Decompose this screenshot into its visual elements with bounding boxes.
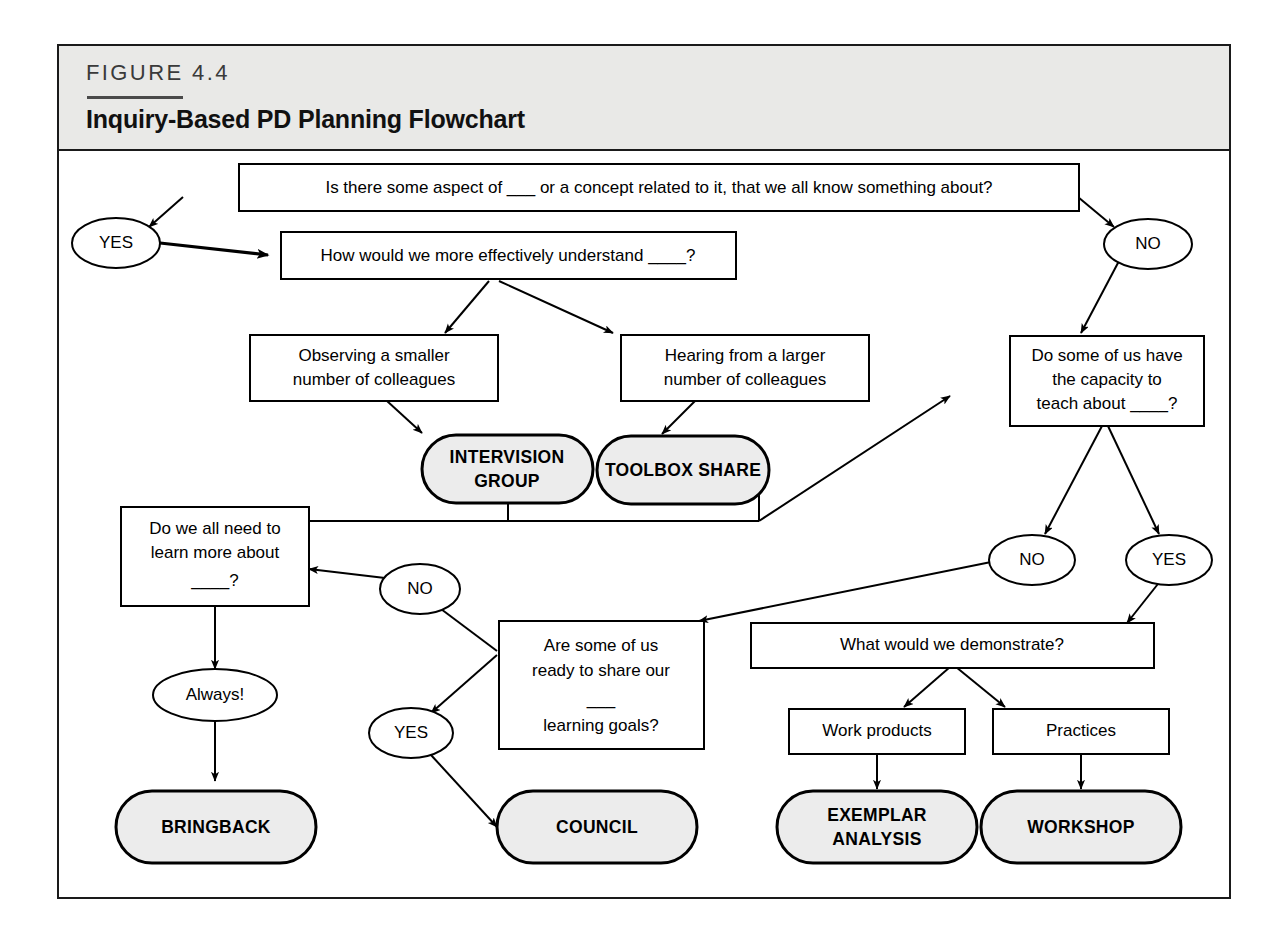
page-title: Inquiry-Based PD Planning Flowchart <box>86 105 525 134</box>
figure-number: FIGURE 4.4 <box>86 60 230 86</box>
node-work-products-label: Work products <box>822 721 931 740</box>
node-toolbox-share[interactable]: TOOLBOX SHARE <box>597 436 769 504</box>
edge-no3-learnmore <box>309 569 385 578</box>
node-intervision-group[interactable]: INTERVISION GROUP <box>422 435 593 503</box>
node-demonstrate-label: What would we demonstrate? <box>840 635 1064 654</box>
figure-page: FIGURE 4.4 Inquiry-Based PD Planning Flo… <box>0 0 1271 943</box>
node-practices[interactable]: Practices <box>993 709 1169 754</box>
node-bringback[interactable]: BRINGBACK <box>116 791 316 863</box>
node-yes-2[interactable]: YES <box>1126 535 1212 585</box>
edge-hearing-toolbox <box>662 401 695 434</box>
node-question-2-label: How would we more effectively understand… <box>321 246 696 265</box>
node-council-label: COUNCIL <box>556 817 638 837</box>
node-no-3-label: NO <box>407 579 433 598</box>
edge-q1-no <box>1078 197 1114 227</box>
node-workshop-label: WORKSHOP <box>1027 817 1134 837</box>
node-observing-label-1: Observing a smaller <box>298 346 450 365</box>
node-question-2[interactable]: How would we more effectively understand… <box>281 232 736 279</box>
node-ready-label-2: ready to share our <box>532 661 670 680</box>
flowchart-svg: Is there some aspect of ___ or a concept… <box>59 151 1228 896</box>
node-exemplar-label-2: ANALYSIS <box>832 829 921 849</box>
node-toolbox-share-label: TOOLBOX SHARE <box>605 460 761 480</box>
node-hearing-box[interactable] <box>621 335 869 401</box>
node-no-2[interactable]: NO <box>989 535 1075 585</box>
node-exemplar-analysis-shape[interactable] <box>777 791 977 863</box>
node-yes-3[interactable]: YES <box>369 708 453 758</box>
node-yes-1[interactable]: YES <box>72 218 160 268</box>
node-always-label: Always! <box>186 685 245 704</box>
node-bringback-label: BRINGBACK <box>161 817 271 837</box>
node-hearing-label-1: Hearing from a larger <box>665 346 826 365</box>
node-capacity[interactable]: Do some of us have the capacity to teach… <box>1010 336 1204 426</box>
node-yes-1-label: YES <box>99 233 133 252</box>
node-demonstrate[interactable]: What would we demonstrate? <box>751 623 1154 668</box>
node-exemplar-label-1: EXEMPLAR <box>827 805 927 825</box>
node-no-2-label: NO <box>1019 550 1045 569</box>
edge-ready-yes3 <box>431 655 497 713</box>
node-hearing[interactable]: Hearing from a larger number of colleagu… <box>621 335 869 401</box>
node-hearing-label-2: number of colleagues <box>664 370 827 389</box>
node-observing-box[interactable] <box>250 335 498 401</box>
node-yes-2-label: YES <box>1152 550 1186 569</box>
node-council[interactable]: COUNCIL <box>497 791 697 863</box>
node-ready-label-1: Are some of us <box>544 636 658 655</box>
node-capacity-label-2: the capacity to <box>1052 370 1162 389</box>
edge-observe-intervision <box>387 401 422 433</box>
node-learn-more-label-2: learn more about <box>151 543 280 562</box>
node-workshop[interactable]: WORKSHOP <box>981 791 1181 863</box>
edge-demo-workprod <box>904 667 950 707</box>
node-practices-label: Practices <box>1046 721 1116 740</box>
node-ready-to-share[interactable]: Are some of us ready to share our ___ le… <box>499 621 704 749</box>
node-intervision-group-shape[interactable] <box>422 435 593 503</box>
node-always[interactable]: Always! <box>153 669 277 721</box>
node-learn-more-label-3: ____? <box>190 571 238 590</box>
flowchart-canvas: Is there some aspect of ___ or a concept… <box>59 151 1229 897</box>
edge-q2-hearing <box>499 281 613 333</box>
node-yes-3-label: YES <box>394 723 428 742</box>
node-work-products[interactable]: Work products <box>789 709 965 754</box>
node-observing[interactable]: Observing a smaller number of colleagues <box>250 335 498 401</box>
edge-yes-q2 <box>160 243 268 255</box>
edge-capacity-yes2 <box>1108 426 1159 534</box>
node-learn-more[interactable]: Do we all need to learn more about ____? <box>121 507 309 606</box>
node-no-1-label: NO <box>1135 234 1161 253</box>
node-no-1[interactable]: NO <box>1104 219 1192 269</box>
node-no-3[interactable]: NO <box>380 564 460 614</box>
edge-q2-observe <box>445 281 489 333</box>
node-learn-more-label-1: Do we all need to <box>149 519 280 538</box>
edge-no-capacity <box>1081 261 1119 333</box>
header-rule <box>87 96 183 99</box>
node-ready-label-4: learning goals? <box>543 716 658 735</box>
edge-yes3-council <box>431 755 497 827</box>
node-exemplar-analysis[interactable]: EXEMPLAR ANALYSIS <box>777 791 977 863</box>
node-observing-label-2: number of colleagues <box>293 370 456 389</box>
edge-no2-ready <box>699 560 1001 621</box>
figure-frame: FIGURE 4.4 Inquiry-Based PD Planning Flo… <box>57 44 1231 899</box>
edge-capacity-no2 <box>1045 426 1102 534</box>
node-question-1[interactable]: Is there some aspect of ___ or a concept… <box>239 164 1079 211</box>
node-intervision-group-label-1: INTERVISION <box>450 447 565 467</box>
edge-demo-practices <box>956 667 1005 707</box>
node-question-1-label: Is there some aspect of ___ or a concept… <box>325 178 992 197</box>
edge-q1-yes <box>149 197 183 227</box>
edge-toolbox-capacity <box>759 396 950 521</box>
node-capacity-label-3: teach about ____? <box>1037 394 1178 413</box>
figure-header: FIGURE 4.4 Inquiry-Based PD Planning Flo… <box>59 46 1229 151</box>
node-capacity-label-1: Do some of us have <box>1031 346 1182 365</box>
node-intervision-group-label-2: GROUP <box>474 471 540 491</box>
node-ready-label-3: ___ <box>586 690 616 709</box>
